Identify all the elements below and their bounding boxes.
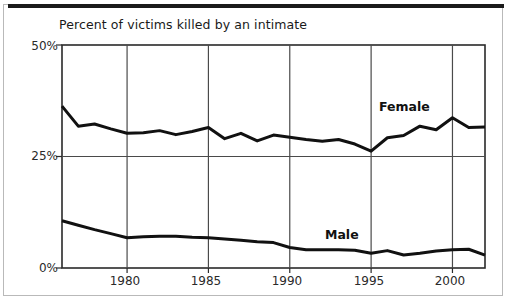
gridlines — [56, 45, 485, 273]
plot-area — [0, 0, 511, 302]
series-line-female — [62, 106, 485, 151]
series-line-male — [62, 221, 485, 255]
data-lines — [62, 106, 485, 255]
chart-figure: Percent of victims killed by an intimate… — [0, 0, 511, 302]
